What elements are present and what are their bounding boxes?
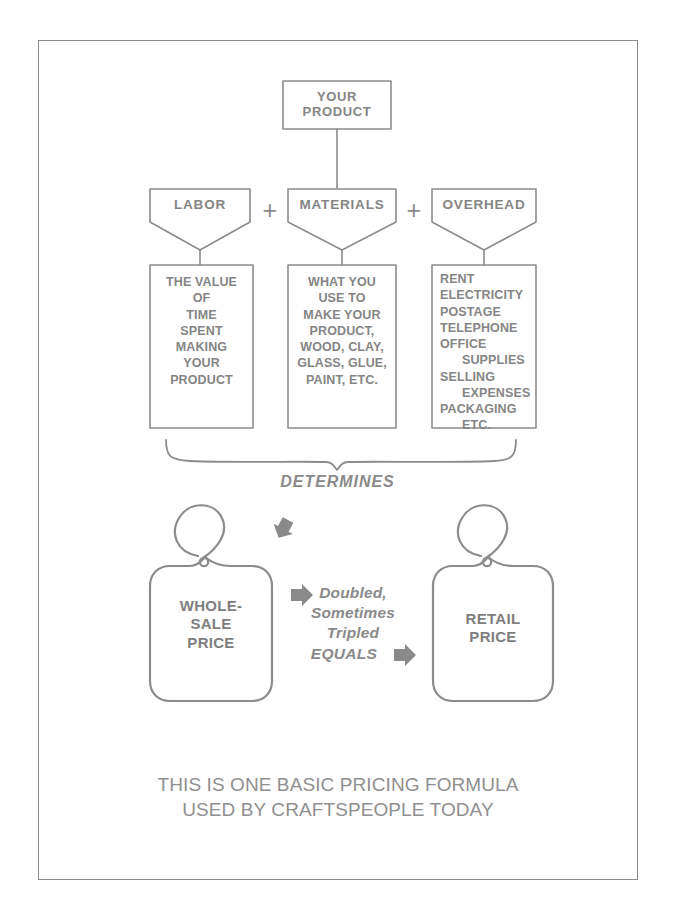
wholesale-tag-string — [175, 505, 224, 558]
labor-line-5: MAKING — [176, 340, 227, 354]
multiplier-line-1: Doubled, — [319, 584, 387, 601]
retail-line-1: RETAIL — [466, 610, 521, 627]
category-label-overhead: OVERHEAD — [432, 197, 536, 212]
labor-line-6: YOUR — [183, 356, 220, 370]
multiplier-line-3: Tripled — [327, 624, 379, 641]
retail-tag-string — [458, 505, 507, 558]
materials-line-7: PAINT, ETC. — [306, 373, 378, 387]
diagram-caption: THIS IS ONE BASIC PRICING FORMULA USED B… — [38, 773, 638, 822]
materials-line-3: MAKE YOUR — [303, 308, 380, 322]
wholesale-line-2: SALE — [190, 615, 231, 632]
determines-arrow-icon — [269, 515, 298, 543]
equals-arrow-icon — [394, 644, 416, 666]
plus-operator-1: + — [252, 196, 288, 224]
materials-line-2: USE TO — [318, 291, 365, 305]
overhead-line-3: POSTAGE — [440, 305, 501, 319]
overhead-line-2: ELECTRICITY — [440, 288, 523, 302]
caption-line-1: THIS IS ONE BASIC PRICING FORMULA — [157, 774, 518, 795]
labor-line-1: THE VALUE — [166, 275, 237, 289]
wholesale-line-3: PRICE — [187, 634, 234, 651]
materials-detail-text: WHAT YOU USE TO MAKE YOUR PRODUCT, WOOD,… — [288, 274, 396, 388]
overhead-line-1: RENT — [440, 272, 475, 286]
brace-label-determines: DETERMINES — [205, 473, 470, 491]
labor-detail-text: THE VALUE OF TIME SPENT MAKING YOUR PROD… — [150, 274, 253, 388]
retail-line-2: PRICE — [469, 628, 516, 645]
summary-brace — [166, 440, 516, 470]
wholesale-line-1: WHOLE- — [180, 597, 243, 614]
materials-line-6: GLASS, GLUE, — [297, 356, 387, 370]
overhead-line-6: SUPPLIES — [440, 352, 536, 368]
overhead-detail-text: RENT ELECTRICITY POSTAGE TELEPHONE OFFIC… — [440, 271, 536, 434]
caption-line-2: USED BY CRAFTSPEOPLE TODAY — [182, 799, 494, 820]
category-label-materials: MATERIALS — [288, 197, 396, 212]
wholesale-price-label: WHOLE- SALE PRICE — [150, 597, 272, 652]
multiplier-line-2: Sometimes — [311, 604, 395, 621]
overhead-line-7: SELLING — [440, 370, 495, 384]
labor-line-7: PRODUCT — [170, 373, 233, 387]
your-product-label: YOURPRODUCT — [283, 90, 391, 119]
retail-price-label: RETAIL PRICE — [433, 610, 553, 647]
labor-line-4: SPENT — [180, 324, 222, 338]
multiplier-note: Doubled, Sometimes Tripled — [298, 583, 408, 643]
materials-line-4: PRODUCT, — [310, 324, 375, 338]
labor-line-3: TIME — [186, 308, 216, 322]
overhead-line-4: TELEPHONE — [440, 321, 518, 335]
overhead-line-5: OFFICE — [440, 337, 487, 351]
overhead-line-9: PACKAGING — [440, 402, 517, 416]
materials-line-1: WHAT YOU — [308, 275, 376, 289]
overhead-line-8: EXPENSES — [440, 385, 536, 401]
materials-line-5: WOOD, CLAY, — [300, 340, 384, 354]
plus-operator-2: + — [396, 196, 432, 224]
pricing-formula-diagram: YOURPRODUCT LABOR MATERIALS OVERHEAD + +… — [0, 0, 674, 903]
overhead-line-10: ETC. — [440, 417, 536, 433]
equals-label: EQUALS — [298, 645, 390, 662]
category-label-labor: LABOR — [150, 197, 250, 212]
diagram-vector-layer — [0, 0, 674, 903]
labor-line-2: OF — [193, 291, 211, 305]
